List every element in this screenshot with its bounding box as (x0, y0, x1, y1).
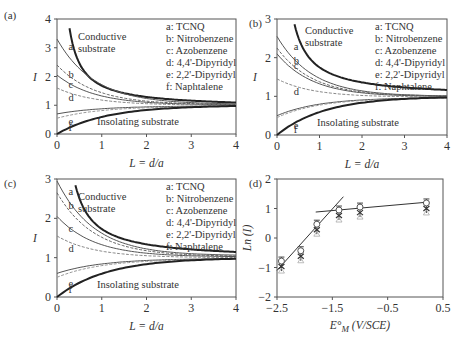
legend-item: a: TCNQ (166, 181, 205, 192)
panel-label: (b) (249, 17, 262, 30)
fit-line (316, 202, 429, 212)
x-axis-title: L = d/a (344, 158, 380, 170)
data-point (314, 221, 320, 227)
data-point (357, 204, 363, 210)
x-tick-label: 1 (317, 139, 323, 153)
curve-letter: a (294, 41, 299, 52)
y-tick-label: 1 (45, 98, 51, 112)
curve-f (57, 259, 236, 277)
panel-label: (d) (249, 177, 262, 190)
plot-frame (277, 179, 443, 297)
x-tick-label: −0.5 (377, 301, 399, 315)
y-axis-title: I (32, 71, 38, 83)
x-tick-label: −1.5 (321, 301, 343, 315)
y-axis-title: I (252, 71, 258, 83)
legend-item: e: 2,2'-Dipyridyl (166, 229, 236, 240)
legend-item: f: Naphtalene (166, 81, 223, 92)
x-tick-label: 2 (359, 139, 365, 153)
y-tick-label: 0 (265, 128, 271, 142)
x-tick-label: 4 (233, 138, 239, 152)
curve-letter: c (68, 223, 73, 234)
fit-line (277, 197, 343, 271)
insolating-substrate-label: Insolating substrate (317, 117, 399, 128)
x-tick-label: 2 (144, 138, 150, 152)
panel-b: (b)012340123abcdefConductivesubstrateIns… (249, 12, 450, 170)
data-point (298, 248, 304, 254)
x-tick-label: 2 (144, 301, 150, 315)
y-tick-label: 3 (265, 12, 271, 26)
curve-letter: f (294, 124, 298, 135)
legend-item: a: TCNQ (375, 21, 414, 32)
legend-item: d: 4,4'-Dipyridyl (166, 57, 236, 68)
x-tick-label: 3 (188, 138, 194, 152)
panel-label: (a) (4, 9, 17, 22)
data-point (423, 200, 429, 206)
curve-letter: a (68, 186, 73, 197)
y-tick-label: 2 (265, 172, 271, 186)
insolating-substrate-label: Insolating substrate (97, 116, 179, 127)
y-tick-label: −1 (258, 261, 271, 275)
curve-letter: a (68, 41, 73, 52)
curve-letter: f (68, 122, 72, 133)
curve-insolating-substrate (57, 259, 236, 297)
y-tick-label: 4 (45, 12, 51, 26)
legend-item: f: Naphtalene (375, 81, 432, 92)
x-tick-label: 4 (444, 139, 450, 153)
conductive-substrate-label: Conductive (305, 25, 354, 36)
panel-label: (c) (4, 177, 17, 190)
legend-item: a: TCNQ (166, 21, 205, 32)
data-point (336, 207, 342, 213)
y-tick-label: 0 (45, 127, 51, 141)
x-tick-label: 4 (233, 301, 239, 315)
y-tick-label: 2 (45, 70, 51, 84)
legend-item: c: Azobenzene (166, 45, 228, 56)
x-tick-label: 1 (99, 301, 105, 315)
legend-item: c: Azobenzene (166, 205, 228, 216)
legend-item: e: 2,2'-Dipyridyl (375, 69, 445, 80)
legend-item: b: Nitrobenzene (166, 33, 234, 44)
x-axis-title: L = d/a (128, 157, 164, 169)
conductive-substrate-label: substrate (78, 43, 116, 54)
x-tick-label: 3 (402, 139, 408, 153)
x-tick-label: 0.5 (436, 301, 451, 315)
curve-letter: c (294, 60, 299, 71)
panel-a: (a)0123401234abcdefConductivesubstrateIn… (4, 9, 239, 169)
legend-item: e: 2,2'-Dipyridyl (166, 69, 236, 80)
y-tick-label: 0 (45, 290, 51, 304)
curve-letter: b (68, 200, 73, 211)
x-tick-label: 3 (188, 301, 194, 315)
legend-item: c: Azobenzene (375, 45, 437, 56)
conductive-substrate-label: Conductive (78, 31, 127, 42)
conductive-substrate-label: Conductive (78, 191, 127, 202)
y-axis-title: I (32, 232, 38, 244)
legend-item: b: Nitrobenzene (375, 33, 443, 44)
x-tick-label: 0 (54, 301, 60, 315)
y-tick-label: 2 (45, 211, 51, 225)
legend-item: f: Naphtalene (166, 241, 223, 252)
y-tick-label: 1 (265, 89, 271, 103)
x-tick-label: 0 (54, 138, 60, 152)
legend-item: d: 4,4'-Dipyridyl (375, 57, 445, 68)
y-tick-label: 1 (45, 251, 51, 265)
y-tick-label: 3 (45, 172, 51, 186)
y-tick-label: −2 (258, 290, 271, 304)
legend-item: d: 4,4'-Dipyridyl (166, 217, 236, 228)
y-axis-title: Ln (I) (241, 225, 254, 253)
panel-d: (d)−2.5−1.5−0.50.5−2−1012E°M (V/SCE)Ln (… (241, 172, 451, 334)
panel-c: (c)012340123abcdefConductivesubstrateIns… (4, 172, 239, 332)
conductive-substrate-label: substrate (78, 203, 116, 214)
legend-item: b: Nitrobenzene (166, 193, 234, 204)
y-tick-label: 3 (45, 41, 51, 55)
curve-letter: d (68, 243, 74, 254)
figure: (a)0123401234abcdefConductivesubstrateIn… (0, 0, 471, 343)
y-tick-label: 0 (265, 231, 271, 245)
curve-letter: d (294, 86, 300, 97)
x-axis-title: L = d/a (128, 320, 164, 332)
x-axis-title: E°M (V/SCE) (329, 319, 390, 334)
x-tick-label: 1 (99, 138, 105, 152)
x-tick-label: 0 (274, 139, 280, 153)
insolating-substrate-label: Insolating substrate (97, 279, 179, 290)
data-point (278, 258, 284, 264)
curve-letter: f (68, 284, 72, 295)
y-tick-label: 2 (265, 51, 271, 65)
